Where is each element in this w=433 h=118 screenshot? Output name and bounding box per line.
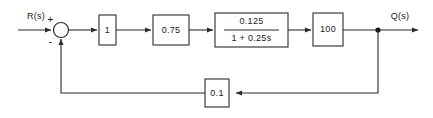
block-gain-075: 0.75 (153, 15, 189, 45)
input-label: R(s) (27, 11, 45, 21)
summing-junction-plus-sign: + (48, 14, 54, 25)
summing-junction-minus-sign: - (49, 36, 52, 47)
transfer-function-numerator: 0.125 (239, 16, 263, 26)
transfer-function-denominator: 1 + 0.25s (232, 33, 272, 43)
block-gain-100: 100 (313, 13, 343, 46)
feedback-wire-left (61, 39, 205, 93)
summing-junction (54, 23, 69, 38)
block-gain-100-label: 100 (320, 24, 336, 34)
block-gain-unity-label: 1 (105, 25, 110, 35)
block-feedback-gain-label: 0.1 (210, 88, 223, 98)
output-signal-wire (343, 27, 418, 32)
block-lag-transfer-function: 0.125 1 + 0.25s (215, 13, 288, 47)
output-label: Q(s) (391, 11, 410, 21)
block-diagram: R(s) + - 1 0.75 0. (0, 0, 433, 118)
block-feedback-gain: 0.1 (205, 79, 229, 107)
block-gain-unity: 1 (99, 15, 116, 45)
block-gain-075-label: 0.75 (162, 25, 181, 35)
